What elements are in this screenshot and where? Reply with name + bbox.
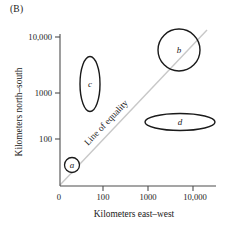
y-axis-title: Kilometers north–south (14, 67, 24, 156)
y-tick-label-100: 100 (39, 134, 52, 144)
line-of-equality (60, 30, 207, 185)
line-of-equality-label-group: Line of equality (80, 93, 134, 149)
y-tick-label-10000: 10,000 (28, 32, 52, 42)
data-label-c: c (88, 79, 92, 89)
data-label-a: a (70, 160, 75, 170)
data-label-d: d (178, 117, 183, 127)
y-tick-label-1000: 1000 (35, 88, 52, 98)
x-tick-label-10000: 10,000 (183, 192, 207, 202)
figure-panel-b: (B) Line of equality 10,000 1000 100 0 1… (0, 0, 228, 229)
line-of-equality-label: Line of equality (82, 98, 130, 148)
x-tick-label-100: 100 (97, 192, 110, 202)
x-axis-title: Kilometers east–west (94, 209, 175, 219)
y-axis-title-group: Kilometers north–south (14, 67, 24, 156)
data-label-b: b (177, 45, 182, 55)
x-tick-label-0: 0 (57, 192, 61, 202)
x-tick-label-1000: 1000 (139, 192, 156, 202)
scatter-plot: Line of equality 10,000 1000 100 0 100 1… (0, 0, 228, 229)
